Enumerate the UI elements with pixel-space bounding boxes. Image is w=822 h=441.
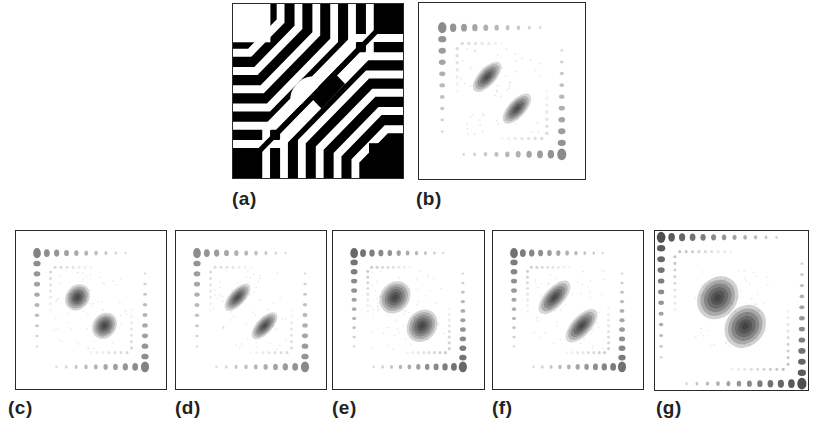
- spot-pattern-image: [333, 231, 484, 389]
- panel-label-f: (f): [492, 397, 512, 419]
- panel-g: [654, 230, 809, 391]
- panel-label-e: (e): [332, 397, 357, 419]
- panel-c: [15, 230, 167, 390]
- panel-label-b: (b): [416, 188, 442, 210]
- panel-a: [232, 3, 404, 179]
- binary-moire-image: [233, 4, 403, 178]
- panel-b: [418, 2, 586, 180]
- panel-f: [492, 230, 644, 390]
- spot-pattern-image: [493, 231, 643, 389]
- spot-pattern-image: [655, 231, 808, 390]
- panel-label-c: (c): [8, 397, 33, 419]
- panel-label-d: (d): [175, 397, 201, 419]
- spot-pattern-image: [176, 231, 326, 389]
- panel-d: [175, 230, 327, 390]
- spot-pattern-image: [16, 231, 166, 389]
- panel-label-g: (g): [656, 397, 682, 419]
- spot-pattern-image: [419, 3, 585, 179]
- panel-label-a: (a): [232, 188, 257, 210]
- panel-e: [332, 230, 485, 390]
